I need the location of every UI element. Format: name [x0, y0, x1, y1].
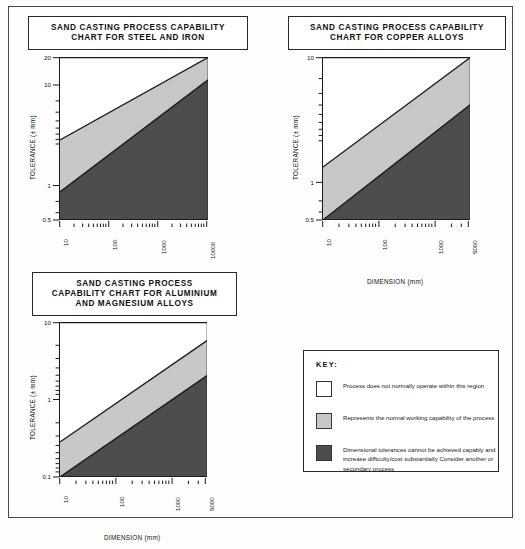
key-legend-box: KEY: Process does not normally operate w… [303, 350, 499, 472]
x-axis-ticks-copper-alloys [322, 221, 471, 228]
y-axis-title: TOLERANCE (± mm) [29, 375, 36, 440]
key-item-label: Process does not normally operate within… [343, 381, 484, 390]
x-tick-label: 1000 [437, 240, 444, 254]
x-tick-label: 100 [381, 240, 388, 250]
plot-svg [323, 57, 470, 220]
key-swatch-light-grey [316, 413, 332, 429]
key-item-label: Dimensional tolerances cannot be achieve… [343, 445, 498, 473]
y-tick-label: 0.5 [297, 216, 314, 223]
y-tick-label: 1 [37, 182, 51, 189]
x-tick-label: 5000 [471, 240, 478, 254]
x-tick-label: 100 [118, 497, 125, 507]
plot-area-aluminium-and-magnesium-alloys [59, 322, 207, 477]
y-axis-ticks-copper-alloys [316, 57, 323, 221]
y-tick-label: 1 [300, 179, 314, 186]
y-axis-title: TOLERANCE (± mm) [29, 115, 36, 180]
x-tick-label: 1000 [174, 497, 181, 511]
y-axis-ticks-aluminium-and-magnesium-alloys [53, 322, 60, 478]
y-tick-label: 20 [37, 54, 51, 61]
key-item-dark-grey: Dimensional tolerances cannot be achieve… [316, 445, 498, 473]
x-tick-label: 10 [325, 239, 332, 246]
plot-area-steel-and-iron [59, 57, 208, 220]
x-tick-label: 10 [62, 496, 69, 503]
chart-panel-aluminium-and-magnesium-alloys: SAND CASTING PROCESS CAPABILITY CHART FO… [18, 270, 263, 520]
key-item-white: Process does not normally operate within… [316, 381, 484, 397]
x-tick-label: 10 [62, 239, 69, 246]
plot-area-copper-alloys [322, 57, 470, 220]
x-tick-label: 1000 [160, 240, 167, 254]
chart-panel-copper-alloys: SAND CASTING PROCESS CAPABILITY CHART FO… [282, 12, 517, 262]
y-axis-title: TOLERANCE (± mm) [292, 115, 299, 180]
chart-steel-and-iron: 20 10 1 0.5 [18, 12, 258, 262]
y-tick-label: 10 [37, 81, 51, 88]
y-tick-label: 10 [300, 54, 314, 61]
x-axis-title: DIMENSION (mm) [367, 278, 423, 285]
x-axis-title: DIMENSION (mm) [104, 534, 160, 541]
page-root: SAND CASTING PROCESS CAPABILITY CHART FO… [0, 0, 525, 549]
plot-svg [60, 57, 208, 220]
chart-panel-steel-and-iron: SAND CASTING PROCESS CAPABILITY CHART FO… [18, 12, 258, 262]
y-tick-label: 1 [37, 396, 51, 403]
plot-svg [60, 322, 207, 477]
x-tick-label: 10000 [209, 242, 216, 259]
key-title: KEY: [316, 360, 338, 369]
x-tick-label: 5000 [208, 497, 215, 511]
key-item-light-grey: Represents the normal working capability… [316, 413, 494, 429]
x-axis-ticks-aluminium-and-magnesium-alloys [59, 478, 208, 485]
x-axis-ticks-steel-and-iron [59, 221, 209, 228]
key-swatch-white [316, 381, 332, 397]
key-swatch-dark-grey [316, 445, 332, 461]
y-tick-label: 0.5 [34, 216, 51, 223]
y-axis-ticks-steel-and-iron [53, 57, 60, 221]
y-tick-label: 0.1 [34, 473, 51, 480]
y-tick-label: 10 [37, 319, 51, 326]
key-item-label: Represents the normal working capability… [343, 413, 494, 422]
x-tick-label: 100 [111, 240, 118, 250]
chart-copper-alloys: 10 1 0.5 [282, 12, 517, 262]
chart-aluminium-and-magnesium-alloys: 10 1 0.1 [18, 270, 263, 520]
